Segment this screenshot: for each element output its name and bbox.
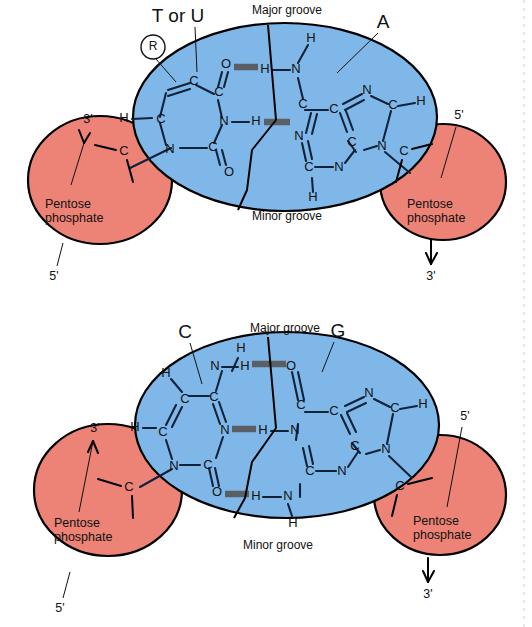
gc-atom-g-c-center: C (329, 403, 338, 418)
at-ribose-marker-label: R (149, 39, 158, 53)
gc-left-sugar-atom: C (124, 479, 133, 494)
at-atom-a-n-bottom: N (334, 159, 343, 174)
gc-left-sugar-line1: Pentose (54, 516, 100, 530)
at-atom-t-n-right: N (219, 113, 228, 128)
gc-atom-c-c-upper: C (180, 391, 189, 406)
gc-minor-groove-label: Minor groove (243, 538, 313, 552)
gc-atom-g-n-bottom: N (337, 463, 346, 478)
gc-atom-g-c-lower: C (350, 438, 359, 453)
gc-atom-g-c-right: C (390, 400, 399, 415)
at-atom-t-o-bottom: O (224, 164, 234, 179)
at-atom-t-h-left: H (119, 110, 128, 125)
at-atom-a-c-upper: C (298, 96, 307, 111)
gc-left-sugar-bottom-prime: 5' (55, 601, 64, 615)
at-atom-a-h-right: H (416, 93, 425, 108)
gc-atom-g-o-top: O (286, 358, 296, 373)
at-right-sugar-bottom-prime: 3' (426, 269, 435, 283)
at-atom-a-n-upper-right: N (362, 82, 371, 97)
gc-atom-c-n-bottom: N (169, 458, 178, 473)
gc-right-sugar-bottom-prime: 3' (423, 587, 432, 601)
at-atom-a-h-top: H (306, 30, 315, 45)
gc-left-sugar-bond-b (132, 496, 133, 518)
gc-atom-c-c-bottom: C (203, 457, 212, 472)
at-atom-t-o-top: O (221, 56, 231, 71)
at-left-sugar-bottom-prime: 5' (49, 269, 58, 283)
at-atom-t-c-bottom: C (208, 139, 217, 154)
gc-major-groove-label: Major groove (250, 321, 320, 335)
gc-atom-c-h-top: H (236, 340, 245, 355)
gc-atom-g-n-lower-right: N (381, 441, 390, 456)
at-left-sugar-atom: C (119, 143, 128, 158)
at-left-base-label: T or U (152, 5, 204, 26)
gc-left-base-label: C (178, 321, 192, 342)
at-atom-a-c-center: C (329, 101, 338, 116)
gc-atom-c-n-top: N (210, 358, 219, 373)
at-atom-a-c-right: C (388, 97, 397, 112)
gc-atom-g-h-amine: H (288, 515, 297, 530)
at-left-sugar-top-prime: 3' (83, 112, 92, 126)
at-atom-t-n-bottom: N (165, 141, 174, 156)
at-atom-t-c-top-left: C (189, 73, 198, 88)
gc-atom-bridge-h-bottom: H (251, 488, 260, 503)
at-atom-a-c-bottom: C (304, 159, 313, 174)
gc-atom-c-c-left: C (158, 424, 167, 439)
at-right-sugar-atom: C (399, 143, 408, 158)
gc-atom-g-c-upper: C (296, 397, 305, 412)
gc-right-sugar-top-prime: 5' (460, 409, 469, 423)
at-atom-t-c-top-right: C (214, 84, 223, 99)
gc-atom-g-c-bottom: C (305, 463, 314, 478)
at-right-sugar-line1: Pentose (407, 197, 453, 211)
gc-atom-c-h-upper-left: H (161, 365, 170, 380)
at-atom-a-c-lower: C (347, 134, 356, 149)
at-right-base-label: A (377, 11, 390, 32)
at-right-sugar-line2: phosphate (407, 211, 465, 225)
at-atom-a-h-bottom: H (308, 189, 317, 204)
gc-left-sugar-top-prime: 3' (90, 421, 99, 435)
at-atom-a-n-top: N (291, 61, 300, 76)
gc-right-sugar-line1: Pentose (413, 514, 459, 528)
base-pairing-figure: C C O C N N C O H H H (0, 0, 532, 627)
at-major-groove-label: Major groove (252, 3, 322, 17)
at-left-sugar-line2: phosphate (45, 211, 103, 225)
gc-left-sugar-line2: phosphate (54, 530, 112, 544)
gc-atom-g-n-amine: N (283, 488, 292, 503)
gc-atom-c-h-left: H (130, 419, 139, 434)
at-atom-a-n-lower-right: N (377, 138, 386, 153)
gc-right-sugar-atom: C (395, 478, 404, 493)
gc-atom-g-h-right: H (418, 396, 427, 411)
gc-atom-c-c-mid: C (209, 389, 218, 404)
gc-atom-bridge-h-mid: H (258, 422, 267, 437)
at-atom-bridge-h-top: H (260, 61, 269, 76)
at-atom-a-n-mid: N (294, 128, 303, 143)
at-atom-t-c-left: C (156, 111, 165, 126)
gc-right-base-label: G (331, 320, 346, 341)
at-left-sugar-line1: Pentose (45, 197, 91, 211)
at-minor-groove-label: Minor groove (252, 209, 322, 223)
gc-atom-c-n-mid: N (220, 422, 229, 437)
at-base-pair-ellipse (133, 23, 437, 211)
gc-atom-bridge-h-top: H (240, 358, 249, 373)
gc-atom-g-n-upper-right: N (364, 385, 373, 400)
gc-atom-g-n-mid: N (290, 422, 299, 437)
at-right-sugar-top-prime: 5' (454, 108, 463, 122)
gc-atom-c-o-bottom: O (212, 484, 222, 499)
at-atom-bridge-h-mid: H (251, 113, 260, 128)
gc-right-sugar-line2: phosphate (413, 528, 471, 542)
